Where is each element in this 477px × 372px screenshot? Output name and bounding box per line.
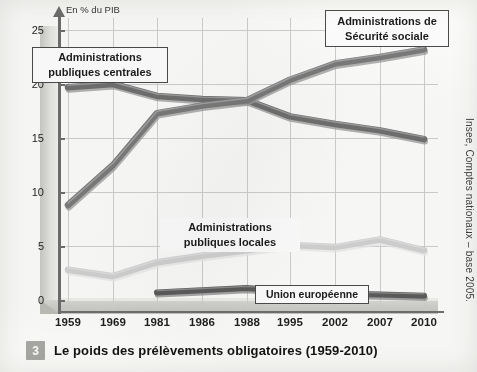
caption-title: Le poids des prélèvements obligatoires (…	[54, 343, 378, 358]
chart-plot-area: En % du PIB 25 20 15 10 5 0 1959 1969 19…	[0, 0, 477, 340]
source-credit: Insee, Comptes nationaux – base 2005.	[464, 118, 475, 302]
figure-page: En % du PIB 25 20 15 10 5 0 1959 1969 19…	[0, 0, 477, 372]
callout-ue-text: Union européenne	[266, 287, 358, 301]
series-line-administrations-publiques-centrales	[68, 82, 425, 141]
callout-administrations-publiques-locales: Administrations publiques locales	[160, 218, 300, 252]
callout-union-europeenne: Union européenne	[255, 285, 369, 304]
callout-administrations-securite-sociale: Administrations de Sécurité sociale	[325, 10, 449, 47]
figure-caption: 3 Le poids des prélèvements obligatoires…	[26, 341, 378, 360]
callout-locales-text: Administrations publiques locales	[184, 220, 276, 250]
x-tick-label-2010: 2010	[394, 316, 454, 328]
callout-secu-text: Administrations de Sécurité sociale	[337, 14, 437, 44]
caption-number-badge: 3	[26, 341, 45, 360]
callout-administrations-publiques-centrales: Administrations publiques centrales	[32, 47, 168, 83]
callout-centrales-text: Administrations publiques centrales	[48, 50, 151, 80]
